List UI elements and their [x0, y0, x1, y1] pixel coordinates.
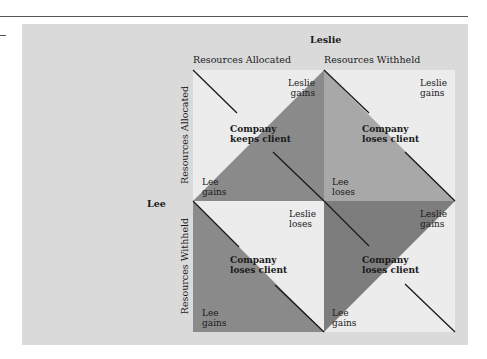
row-header-allocated: Resources Allocated [179, 85, 191, 185]
cell-tl-outcome: Companykeeps client [230, 124, 291, 144]
cell-tr-outcome: Companyloses client [362, 124, 419, 144]
outcome-line: loses client [362, 134, 419, 144]
payoff-line: gains [420, 219, 444, 229]
payoff-line: Leslie [288, 78, 315, 88]
payoff-line: Lee [332, 177, 349, 187]
payoff-line: loses [289, 219, 312, 229]
cell-tr-lee-payoff: Leeloses [332, 177, 355, 197]
payoff-line: Lee [202, 177, 219, 187]
payoff-line: gains [202, 318, 226, 328]
player-left-label: Lee [147, 198, 166, 209]
payoff-line: Leslie [420, 78, 447, 88]
row-header-withheld: Resources Withheld [179, 216, 191, 316]
outcome-line: Company [230, 124, 277, 134]
cell-br-outcome: Companyloses client [362, 255, 419, 275]
payoff-line: Leslie [420, 209, 447, 219]
player-top-label: Leslie [310, 34, 341, 45]
cell-bl-lee-payoff: Leegains [202, 308, 226, 328]
cell-br-leslie-payoff: Lesliegains [420, 209, 447, 229]
cell-tr-leslie-payoff: Lesliegains [420, 78, 447, 98]
payoff-line: Lee [332, 308, 349, 318]
payoff-line: gains [332, 318, 356, 328]
payoff-line: gains [420, 88, 444, 98]
payoff-line: gains [202, 187, 226, 197]
payoff-line: Lee [202, 308, 219, 318]
column-header-allocated: Resources Allocated [193, 54, 291, 65]
outcome-line: Company [230, 255, 277, 265]
cell-br-lee-payoff: Leegains [332, 308, 356, 328]
outcome-line: keeps client [230, 134, 291, 144]
cell-bl-outcome: Companyloses client [230, 255, 287, 275]
outcome-line: Company [362, 124, 409, 134]
payoff-line: Leslie [289, 209, 316, 219]
cell-bl-leslie-payoff: Leslieloses [289, 209, 316, 229]
cell-tl-lee-payoff: Leegains [202, 177, 226, 197]
outcome-line: loses client [230, 265, 287, 275]
cell-tl-leslie-payoff: Lesliegains [288, 78, 315, 98]
column-header-withheld: Resources Withheld [324, 54, 420, 65]
outcome-line: Company [362, 255, 409, 265]
payoff-line: gains [291, 88, 315, 98]
payoff-line: loses [332, 187, 355, 197]
outcome-line: loses client [362, 265, 419, 275]
